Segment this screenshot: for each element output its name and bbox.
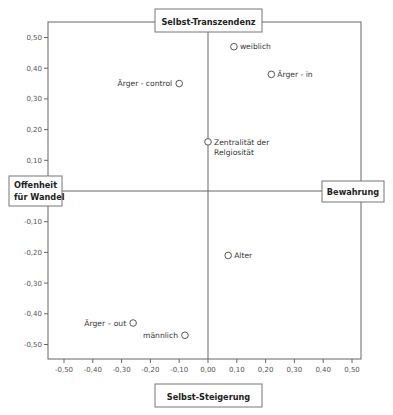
- x-tick-label: 0,10: [229, 366, 245, 374]
- x-tick-label: 0,50: [344, 366, 360, 374]
- point-marker: [205, 139, 212, 146]
- x-tick-label: 0,30: [287, 366, 303, 374]
- pole-label-right: Bewahrung: [322, 181, 384, 202]
- point-marker: [182, 332, 189, 339]
- y-tick-label: -0,20: [24, 249, 42, 257]
- data-point: Zentralität derRelgiosität: [205, 138, 270, 157]
- y-tick-label: -0,40: [24, 310, 42, 318]
- data-point: weiblich: [231, 42, 272, 51]
- point-marker: [176, 80, 183, 87]
- data-point: Ärger - in: [268, 70, 313, 79]
- y-tick-label: -0,30: [24, 280, 42, 288]
- pole-label-top-text: Selbst-Transzendenz: [161, 17, 255, 27]
- point-marker: [231, 43, 238, 50]
- x-tick-label: -0,10: [170, 366, 188, 374]
- data-point: Alter: [225, 251, 253, 260]
- y-tick-label: 0,10: [26, 157, 42, 165]
- point-marker: [225, 252, 232, 259]
- pole-label-top: Selbst-Transzendenz: [155, 9, 262, 32]
- scatter-chart: -0,50-0,40-0,30-0,20-0,100,000,100,200,3…: [0, 0, 393, 415]
- point-label: männlich: [143, 331, 178, 340]
- x-tick-label: -0,50: [55, 366, 73, 374]
- x-tick-label: -0,40: [84, 366, 102, 374]
- y-tick-label: 0,50: [26, 34, 42, 42]
- x-tick-label: -0,30: [113, 366, 131, 374]
- pole-label-left-line2: für Wandel: [14, 192, 65, 202]
- x-tick-label: 0,00: [200, 366, 216, 374]
- point-label: Ärger - in: [277, 70, 312, 79]
- data-point: Ärger - control: [118, 79, 183, 88]
- y-tick-label: 0,20: [26, 126, 42, 134]
- x-tick-label: -0,20: [141, 366, 159, 374]
- point-label: Zentralität der: [214, 138, 270, 147]
- y-tick-label: 0,30: [26, 95, 42, 103]
- pole-label-left-line1: Offenheit: [14, 180, 57, 190]
- x-tick-label: 0,20: [258, 366, 274, 374]
- pole-label-bottom: Selbst-Steigerung: [155, 384, 262, 407]
- point-marker: [268, 71, 275, 78]
- point-marker: [130, 320, 137, 327]
- y-tick-label: -0,10: [24, 218, 42, 226]
- point-label-line2: Relgiosität: [214, 148, 254, 157]
- pole-label-bottom-text: Selbst-Steigerung: [167, 392, 251, 402]
- y-tick-label: -0,50: [24, 341, 42, 349]
- point-label: Ärger - control: [118, 79, 173, 88]
- data-point: Ärger – out: [84, 319, 136, 328]
- data-point: männlich: [143, 331, 188, 340]
- point-label: Alter: [234, 251, 253, 260]
- x-tick-label: 0,40: [315, 366, 331, 374]
- y-tick-label: 0,40: [26, 65, 42, 73]
- point-label: weiblich: [240, 42, 271, 51]
- point-label: Ärger – out: [84, 319, 126, 328]
- pole-label-right-text: Bewahrung: [327, 187, 379, 197]
- pole-label-left: Offenheit für Wandel: [9, 176, 65, 206]
